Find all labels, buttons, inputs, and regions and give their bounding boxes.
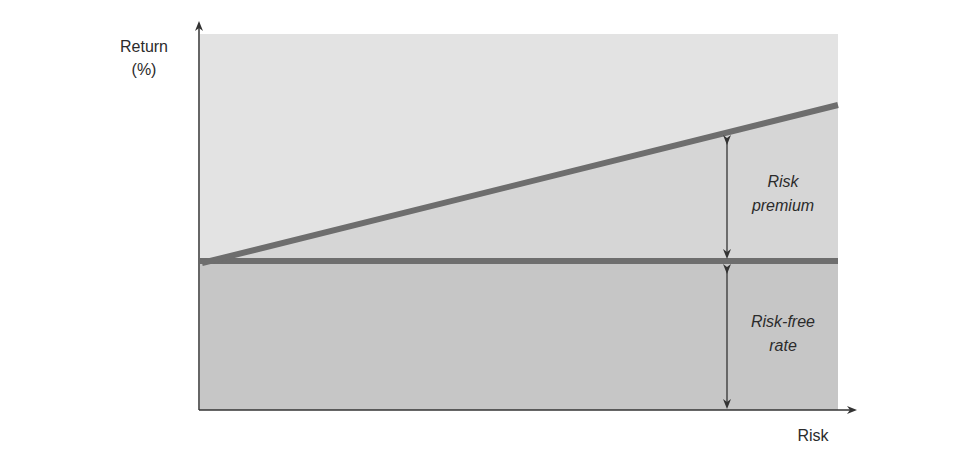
riskfree-label-2: rate [769, 337, 797, 354]
y-axis-label-1: Return [120, 38, 168, 55]
x-axis-label: Risk [797, 427, 829, 444]
riskfree-label-1: Risk-free [751, 313, 815, 330]
risk-return-diagram: Return (%) Risk Risk premium Risk-free r… [0, 0, 970, 459]
risk-free-region [200, 262, 838, 410]
premium-label-2: premium [751, 197, 814, 214]
y-axis-label-2: (%) [132, 61, 157, 78]
premium-label-1: Risk [767, 173, 799, 190]
